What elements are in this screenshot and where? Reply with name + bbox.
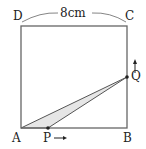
point-q [125, 75, 129, 79]
point-p [46, 126, 50, 130]
label-a: A [12, 132, 21, 144]
dimension-arc [92, 13, 126, 22]
arrow-p-head-icon [63, 136, 67, 140]
arrow-q-head-icon [133, 59, 137, 64]
label-c: C [125, 10, 134, 22]
label-q: Q [131, 70, 141, 82]
dimension-arc [22, 13, 58, 22]
label-d: D [13, 10, 23, 22]
side-length-label: 8cm [60, 7, 86, 19]
label-b: B [123, 132, 132, 144]
square-abcd [21, 26, 127, 128]
triangle-apq [21, 77, 127, 128]
label-p: P [43, 132, 51, 144]
